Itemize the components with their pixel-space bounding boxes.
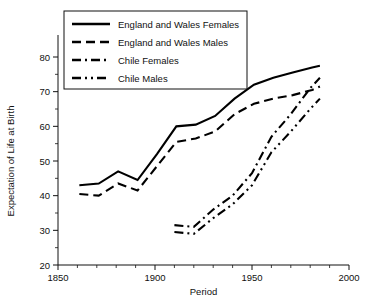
y-tick-label: 30 (39, 225, 50, 236)
y-tick-label: 50 (39, 156, 50, 167)
y-tick-label: 60 (39, 121, 50, 132)
y-tick-label: 80 (39, 52, 50, 63)
series-line-3 (174, 99, 320, 234)
series-line-2 (174, 78, 320, 227)
legend-label-2: Chile Females (118, 55, 179, 66)
y-tick-label: 70 (39, 86, 50, 97)
legend-label-1: England and Wales Males (118, 37, 228, 48)
life-expectancy-chart: 203040506070801850190019502000PeriodExpe… (0, 0, 384, 300)
x-tick-label: 1900 (144, 272, 165, 283)
x-tick-label: 1850 (47, 272, 68, 283)
legend-label-0: England and Wales Females (118, 19, 239, 30)
y-tick-label: 20 (39, 260, 50, 271)
x-tick-label: 2000 (338, 272, 359, 283)
series-line-1 (79, 86, 320, 195)
legend: England and Wales FemalesEngland and Wal… (64, 11, 247, 89)
chart-canvas: 203040506070801850190019502000PeriodExpe… (0, 0, 384, 300)
x-tick-label: 1950 (241, 272, 262, 283)
series-group (79, 66, 320, 234)
legend-label-3: Chile Males (118, 73, 168, 84)
y-tick-label: 40 (39, 190, 50, 201)
x-axis-title: Period (190, 286, 217, 297)
y-axis-title: Expectation of Life at Birth (5, 106, 16, 217)
